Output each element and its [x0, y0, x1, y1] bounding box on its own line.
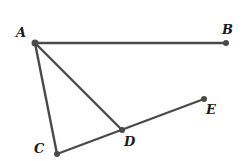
- point-C: [54, 151, 60, 157]
- segment-AC: [35, 43, 57, 154]
- point-A: [32, 40, 39, 47]
- label-E: E: [205, 102, 217, 117]
- segment-AD: [35, 43, 122, 130]
- label-A: A: [14, 25, 26, 40]
- diagram-svg: ABCDE: [0, 0, 246, 161]
- label-D: D: [123, 134, 136, 149]
- geometry-diagram: ABCDE: [0, 0, 246, 161]
- point-D: [119, 127, 125, 133]
- point-B: [223, 40, 229, 46]
- label-C: C: [34, 141, 45, 156]
- label-B: B: [221, 22, 233, 37]
